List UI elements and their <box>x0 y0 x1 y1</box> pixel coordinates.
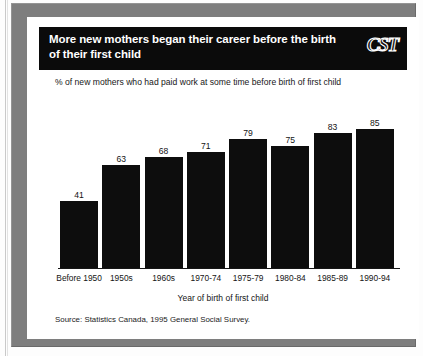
cst-logo-text: CST <box>367 34 398 55</box>
bar-column: 75 <box>271 93 309 268</box>
source-note: Source: Statistics Canada, 1995 General … <box>55 315 250 324</box>
bar <box>145 157 183 268</box>
bar <box>356 129 394 268</box>
bar-value-label: 71 <box>187 141 225 151</box>
x-axis-tick-label: 1980-84 <box>266 273 314 283</box>
cst-logo: CST <box>354 34 398 56</box>
x-axis-title: Year of birth of first child <box>27 293 419 303</box>
figure-header-band: More new mothers began their career befo… <box>39 27 407 70</box>
x-axis-tick-label: 1990-94 <box>351 273 399 283</box>
x-axis-tick-label: 1985-89 <box>309 273 357 283</box>
bar <box>229 139 267 268</box>
bar-value-label: 68 <box>145 146 183 156</box>
bar-chart-plot-area: 4163687179758385 <box>60 93 398 268</box>
bar-value-label: 83 <box>314 122 352 132</box>
bar-value-label: 41 <box>60 190 98 200</box>
x-axis-tick-label: 1970-74 <box>182 273 230 283</box>
bar <box>271 146 309 268</box>
bar-column: 68 <box>145 93 183 268</box>
page-edge-rule <box>5 0 6 356</box>
bar <box>102 165 140 268</box>
chart-subtitle: % of new mothers who had paid work at so… <box>55 77 341 87</box>
scan-page: More new mothers began their career befo… <box>0 0 423 356</box>
x-axis-tick-labels: Before 19501950s1960s1970-741975-791980-… <box>58 273 400 287</box>
bar-column: 85 <box>356 93 394 268</box>
bar-column: 71 <box>187 93 225 268</box>
bar-value-label: 79 <box>229 128 267 138</box>
bar-value-label: 63 <box>102 154 140 164</box>
x-axis-tick-label: 1960s <box>140 273 188 283</box>
bar-column: 41 <box>60 93 98 268</box>
bar-column: 63 <box>102 93 140 268</box>
figure-card: More new mothers began their career befo… <box>27 17 419 339</box>
x-axis-tick-label: Before 1950 <box>55 273 103 283</box>
x-axis-tick-label: 1975-79 <box>224 273 272 283</box>
bar-value-label: 85 <box>356 118 394 128</box>
figure-frame: More new mothers began their career befo… <box>11 3 416 347</box>
bar-column: 79 <box>229 93 267 268</box>
bar-column: 83 <box>314 93 352 268</box>
bar <box>314 133 352 268</box>
bar <box>60 201 98 268</box>
bar <box>187 152 225 268</box>
x-axis-tick-label: 1950s <box>97 273 145 283</box>
page-title: More new mothers began their career befo… <box>49 32 339 62</box>
page-edge-rule-secondary <box>7 0 8 356</box>
x-axis-line <box>58 268 400 269</box>
bar-value-label: 75 <box>271 135 309 145</box>
